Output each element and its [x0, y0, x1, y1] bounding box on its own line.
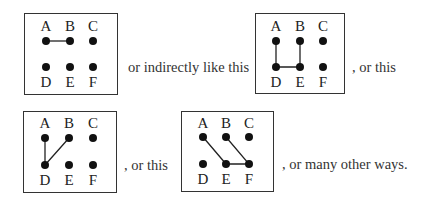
dot-b [222, 133, 230, 141]
dot-a [199, 133, 207, 141]
dot-c [245, 133, 253, 141]
caption-4: , or many other ways. [282, 156, 408, 172]
diagram-4-connections [0, 0, 427, 203]
dot-e [222, 160, 230, 168]
dot-f [245, 160, 253, 168]
dot-d [199, 160, 207, 168]
